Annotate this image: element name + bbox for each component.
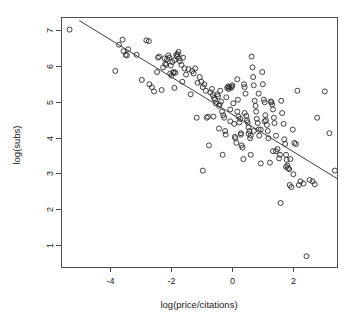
scatter-plot-figure: -4-202 1234567 log(price/citations) log(… bbox=[0, 0, 354, 325]
data-point bbox=[258, 161, 263, 166]
data-point bbox=[315, 115, 320, 120]
data-point bbox=[157, 54, 162, 59]
data-point bbox=[270, 149, 275, 154]
data-point bbox=[280, 111, 285, 116]
data-point bbox=[260, 82, 265, 87]
data-point bbox=[139, 77, 144, 82]
data-point bbox=[274, 133, 279, 138]
data-point bbox=[281, 121, 286, 126]
data-point bbox=[260, 70, 265, 75]
x-tick-label: 2 bbox=[291, 276, 296, 286]
x-tick-label: -4 bbox=[106, 276, 114, 286]
data-point bbox=[267, 160, 272, 165]
y-tick-label: 1 bbox=[45, 243, 55, 248]
data-point bbox=[235, 109, 240, 114]
data-point bbox=[200, 168, 205, 173]
plot-canvas: -4-202 1234567 log(price/citations) log(… bbox=[0, 0, 354, 325]
data-point bbox=[223, 132, 228, 137]
x-axis-ticks: -4-202 bbox=[106, 267, 296, 286]
x-tick-label: -2 bbox=[167, 276, 175, 286]
data-point bbox=[172, 85, 177, 90]
data-point bbox=[248, 152, 253, 157]
data-point bbox=[206, 143, 211, 148]
data-point bbox=[241, 157, 246, 162]
y-tick-label: 7 bbox=[45, 28, 55, 33]
data-point bbox=[295, 88, 300, 93]
data-point bbox=[252, 98, 257, 103]
data-point bbox=[232, 121, 237, 126]
data-point bbox=[278, 200, 283, 205]
data-point bbox=[271, 115, 276, 120]
data-point bbox=[152, 89, 157, 94]
data-point bbox=[327, 131, 332, 136]
data-point bbox=[211, 114, 216, 119]
data-point bbox=[243, 91, 248, 96]
data-point bbox=[253, 103, 258, 108]
data-point bbox=[184, 72, 189, 77]
x-axis-title: log(price/citations) bbox=[160, 299, 237, 310]
data-point bbox=[216, 126, 221, 131]
data-point bbox=[218, 88, 223, 93]
data-point bbox=[322, 89, 327, 94]
data-point bbox=[235, 77, 240, 82]
data-point bbox=[293, 141, 298, 146]
data-point bbox=[159, 88, 164, 93]
data-point bbox=[290, 127, 295, 132]
data-point bbox=[194, 115, 199, 120]
y-tick-label: 6 bbox=[45, 64, 55, 69]
data-point bbox=[67, 27, 72, 32]
y-axis-title: log(subs) bbox=[11, 125, 22, 164]
data-point bbox=[304, 254, 309, 259]
data-point bbox=[231, 101, 236, 106]
data-point bbox=[113, 68, 118, 73]
data-point bbox=[282, 137, 287, 142]
data-point bbox=[254, 109, 259, 114]
data-point bbox=[180, 55, 185, 60]
data-point bbox=[307, 177, 312, 182]
data-point bbox=[256, 91, 261, 96]
data-point bbox=[249, 54, 254, 59]
data-point bbox=[251, 75, 256, 80]
data-point bbox=[265, 129, 270, 134]
data-points-layer bbox=[67, 27, 337, 259]
data-point bbox=[263, 113, 268, 118]
data-point bbox=[120, 37, 125, 42]
x-tick-label: 0 bbox=[230, 276, 235, 286]
y-tick-label: 5 bbox=[45, 100, 55, 105]
data-point bbox=[291, 172, 296, 177]
data-point bbox=[250, 65, 255, 70]
y-axis-ticks: 1234567 bbox=[45, 28, 61, 248]
data-point bbox=[235, 97, 240, 102]
y-tick-label: 3 bbox=[45, 171, 55, 176]
data-point bbox=[234, 140, 239, 145]
data-point bbox=[284, 152, 289, 157]
data-point bbox=[251, 83, 256, 88]
data-point bbox=[279, 98, 284, 103]
data-point bbox=[188, 92, 193, 97]
regression-fit-line bbox=[79, 21, 337, 179]
y-tick-label: 4 bbox=[45, 136, 55, 141]
plot-frame-box bbox=[62, 18, 338, 268]
data-point bbox=[272, 121, 277, 126]
data-point bbox=[270, 107, 275, 112]
data-point bbox=[228, 107, 233, 112]
y-tick-label: 2 bbox=[45, 207, 55, 212]
data-point bbox=[220, 152, 225, 157]
data-point bbox=[224, 95, 229, 100]
data-point bbox=[257, 133, 262, 138]
data-point bbox=[288, 157, 293, 162]
data-point bbox=[206, 114, 211, 119]
data-point bbox=[332, 168, 337, 173]
data-point bbox=[155, 70, 160, 75]
